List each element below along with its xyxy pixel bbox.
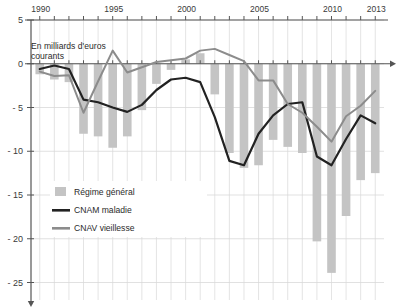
bar-2004 <box>240 64 249 168</box>
bar-2010 <box>327 64 336 273</box>
unit-note-line2: courants <box>31 51 64 61</box>
y-tick-label--20: - 20 <box>7 234 23 244</box>
legend-label-cnam-maladie: CNAM maladie <box>74 205 132 215</box>
bar-2003 <box>225 64 234 153</box>
legend-swatch-cnav-vieillesse <box>52 227 70 230</box>
chart-legend: Régime général CNAM maladie CNAV vieille… <box>50 181 207 237</box>
legend-swatch-cnam-maladie <box>52 209 70 212</box>
bar-2002 <box>210 64 219 95</box>
chart-container: 199019952000200520102013 50- 5- 10- 15- … <box>0 0 396 307</box>
bar-1996 <box>123 64 132 137</box>
x-tick-label-2000: 2000 <box>177 4 196 14</box>
x-tick-label-1995: 1995 <box>104 4 123 14</box>
y-tick-label-0: 0 <box>18 59 23 69</box>
legend-label-cnav-vieillesse: CNAV vieillesse <box>74 223 135 233</box>
x-tick-label-2013: 2013 <box>367 4 386 14</box>
y-tick-label--25: - 25 <box>7 278 23 288</box>
y-tick-label--5: - 5 <box>12 103 23 113</box>
y-tick-label--10: - 10 <box>7 146 23 156</box>
x-tick-label-1990: 1990 <box>31 4 50 14</box>
legend-swatch-regime-general <box>55 187 66 196</box>
legend-label-regime-general: Régime général <box>74 187 135 197</box>
bar-1998 <box>152 64 161 84</box>
y-tick-label-5: 5 <box>18 15 23 25</box>
x-tick-label-2010: 2010 <box>323 4 342 14</box>
bar-2008 <box>298 64 307 153</box>
bar-2013 <box>371 64 380 173</box>
bar-1999 <box>167 64 176 70</box>
x-tick-label-2005: 2005 <box>250 4 269 14</box>
y-tick-label--15: - 15 <box>7 190 23 200</box>
deficit-chart: 199019952000200520102013 50- 5- 10- 15- … <box>0 0 396 307</box>
unit-note-line1: En milliards d'euros <box>31 41 106 51</box>
bar-2006 <box>269 64 278 140</box>
